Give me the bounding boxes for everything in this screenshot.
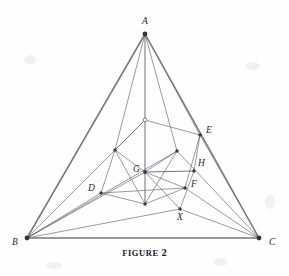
segment-Q-D	[101, 150, 115, 193]
point-label-E: E	[206, 126, 212, 136]
caption-number: 2	[162, 247, 167, 258]
point-label-F: F	[191, 180, 197, 190]
triangle-abc-outline	[27, 34, 259, 238]
vertex-dot-apex-inner	[143, 118, 147, 122]
geometry-drawing	[0, 0, 289, 276]
vertex-dot-A	[143, 32, 148, 37]
median-and-chord	[145, 34, 194, 204]
vertex-dot-C	[257, 236, 262, 241]
segment-F-C	[185, 188, 259, 238]
vertex-dot-E	[198, 133, 201, 136]
point-label-G: G	[133, 165, 140, 175]
segment-B-X	[27, 209, 180, 238]
segment-G-X	[145, 172, 180, 209]
point-label-A: A	[142, 17, 148, 27]
vertex-dot-right-inner	[175, 149, 178, 152]
segment-Q-G	[115, 150, 145, 172]
segment-A-B	[27, 34, 145, 238]
segment-A-C	[145, 34, 259, 238]
figure-container: A B C D E F G H X FIGURE 2	[0, 0, 289, 276]
segment-H-X	[180, 171, 194, 209]
scan-speck	[265, 195, 275, 209]
segment-A-R	[145, 34, 177, 151]
segment-G-R	[145, 151, 177, 172]
vertex-dot-B	[25, 236, 30, 241]
segment-B-R	[27, 151, 177, 238]
segment-X-C	[180, 209, 259, 238]
segment-P-E	[145, 120, 200, 135]
segment-D-M	[101, 193, 145, 204]
segment-Q-M	[115, 150, 145, 204]
scan-speck	[246, 62, 260, 70]
segment-G-F	[145, 172, 185, 188]
vertex-markers	[25, 32, 262, 241]
scan-speck	[214, 258, 227, 266]
vertex-dot-F	[183, 186, 186, 189]
scan-speck	[46, 262, 62, 269]
vertex-dot-left-inner	[113, 148, 116, 151]
segment-A-Q	[115, 34, 145, 150]
segment-B-G	[27, 172, 145, 238]
segment-P-Q	[115, 120, 145, 150]
segment-G-H	[145, 171, 194, 172]
figure-caption: FIGURE 2	[0, 247, 289, 258]
point-label-X: X	[177, 213, 183, 223]
interior-cevians	[27, 34, 259, 238]
caption-word: FIGURE	[122, 248, 159, 258]
point-label-D: D	[88, 184, 95, 194]
scan-speck	[24, 55, 36, 64]
segment-M-F	[145, 188, 185, 204]
vertex-dot-G	[143, 170, 147, 174]
segment-D-F	[101, 188, 185, 193]
vertex-dot-D	[99, 191, 102, 194]
vertex-dot-X	[178, 207, 181, 210]
vertex-dot-H	[192, 169, 195, 172]
vertex-dot-midpoint-bc	[143, 202, 146, 205]
point-label-H: H	[198, 159, 205, 169]
